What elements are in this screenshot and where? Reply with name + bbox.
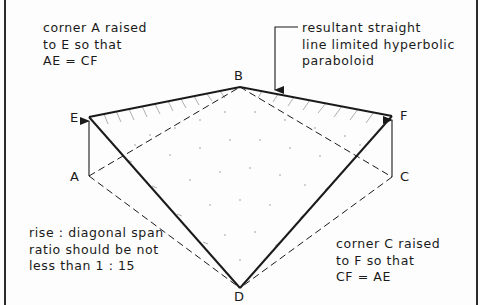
note-line: CF = AE <box>336 269 440 286</box>
note-resultant: resultant straight line limited hyperbol… <box>302 20 455 70</box>
leader-line <box>275 27 298 90</box>
note-line: AE = CF <box>43 53 147 70</box>
note-line: to E so that <box>43 37 147 54</box>
point-label-F: F <box>400 108 407 123</box>
surface-hatching <box>104 91 374 246</box>
note-line: to F so that <box>336 253 440 270</box>
hypar-diagram: B E A F C D corner A raised to E so that… <box>0 0 480 305</box>
note-line: ratio should be not <box>29 242 164 259</box>
note-line: rise : diagonal span <box>29 225 164 242</box>
note-line: line limited hyperbolic <box>302 37 455 54</box>
point-label-D: D <box>234 289 244 304</box>
note-corner-a: corner A raised to E so that AE = CF <box>43 20 147 70</box>
note-rise-ratio: rise : diagonal span ratio should be not… <box>29 225 164 275</box>
edge-A-B <box>89 87 240 176</box>
note-line: corner A raised <box>43 20 147 37</box>
note-line: paraboloid <box>302 53 455 70</box>
note-line: less than 1 : 15 <box>29 258 164 275</box>
point-label-A: A <box>70 169 79 184</box>
note-corner-c: corner C raised to F so that CF = AE <box>336 236 440 286</box>
note-line: resultant straight <box>302 20 455 37</box>
note-line: corner C raised <box>336 236 440 253</box>
point-label-B: B <box>234 68 243 83</box>
point-label-C: C <box>400 169 409 184</box>
point-label-E: E <box>70 110 78 125</box>
edge-E-B-F <box>89 87 392 117</box>
surface-stipple <box>134 111 361 261</box>
